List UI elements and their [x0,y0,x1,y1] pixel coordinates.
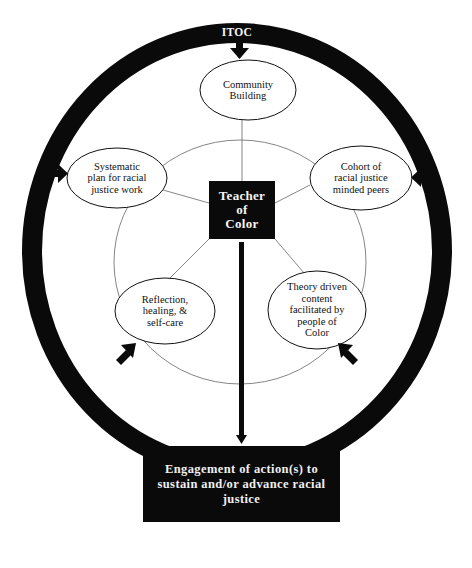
node-label-reflection: Reflection, healing, & self-care [115,291,215,331]
node-label-theory: Theory driven content facilitated by peo… [268,280,366,340]
arrow-icon-bottom-right [338,343,358,365]
node-label-systematic-plan: Systematic plan for racial justice work [67,158,167,198]
teacher-of-color-box: Teacher of Color [209,181,275,239]
arrow-icon-bottom-left [116,343,136,365]
node-label-cohort: Cohort of racial justice minded peers [310,158,412,198]
outcome-box: Engagement of action(s) to sustain and/o… [143,446,340,522]
node-label-community-building: Community Building [200,72,296,108]
arrow-icon-down-outcome [236,242,247,444]
itoc-label: ITOC [212,26,262,38]
outcome-label: Engagement of action(s) to sustain and/o… [149,462,334,507]
